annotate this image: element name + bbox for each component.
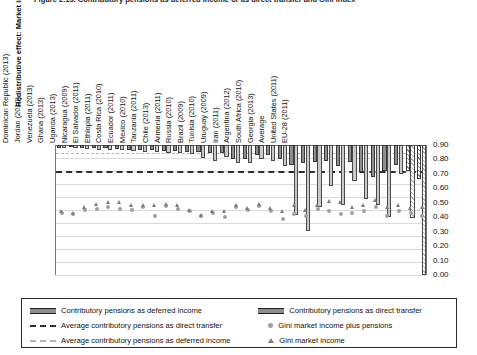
bar-direct-transfer[interactable] bbox=[190, 145, 194, 154]
bar-deferred-income[interactable] bbox=[266, 145, 270, 155]
bar-deferred-income[interactable] bbox=[92, 145, 96, 148]
chart-category-column[interactable] bbox=[254, 145, 266, 275]
marker-gini-market-income[interactable] bbox=[420, 205, 424, 209]
bar-direct-transfer[interactable] bbox=[271, 145, 275, 161]
marker-gini-market-income-plus-pensions[interactable] bbox=[118, 207, 122, 211]
bar-deferred-income[interactable] bbox=[162, 145, 166, 151]
marker-gini-market-income-plus-pensions[interactable] bbox=[130, 208, 134, 212]
marker-gini-market-income-plus-pensions[interactable] bbox=[106, 205, 110, 209]
bar-direct-transfer[interactable] bbox=[341, 145, 345, 205]
bar-direct-transfer[interactable] bbox=[178, 145, 182, 153]
chart-category-column[interactable] bbox=[289, 145, 301, 275]
bar-direct-transfer[interactable] bbox=[213, 145, 217, 161]
bar-deferred-income[interactable] bbox=[289, 145, 293, 165]
marker-gini-market-income[interactable] bbox=[199, 213, 203, 217]
bar-direct-transfer[interactable] bbox=[364, 145, 368, 199]
chart-category-column[interactable] bbox=[393, 145, 405, 275]
marker-gini-market-income[interactable] bbox=[71, 211, 75, 215]
bar-deferred-income[interactable] bbox=[127, 145, 131, 150]
marker-gini-market-income-plus-pensions[interactable] bbox=[281, 217, 285, 221]
bar-deferred-income[interactable] bbox=[406, 145, 410, 171]
marker-gini-market-income[interactable] bbox=[222, 209, 226, 213]
marker-gini-market-income[interactable] bbox=[117, 200, 121, 204]
chart-category-column[interactable] bbox=[196, 145, 208, 275]
chart-category-column[interactable] bbox=[184, 145, 196, 275]
marker-gini-market-income[interactable] bbox=[257, 202, 261, 206]
bar-direct-transfer[interactable] bbox=[399, 145, 403, 174]
marker-gini-market-income[interactable] bbox=[292, 203, 296, 207]
bar-direct-transfer[interactable] bbox=[201, 145, 205, 158]
marker-gini-market-income[interactable] bbox=[94, 202, 98, 206]
bar-direct-transfer[interactable] bbox=[224, 145, 228, 157]
bar-direct-transfer[interactable] bbox=[422, 145, 426, 275]
bar-deferred-income[interactable] bbox=[371, 145, 375, 177]
bar-deferred-income[interactable] bbox=[336, 145, 340, 166]
bar-deferred-income[interactable] bbox=[208, 145, 212, 153]
bar-direct-transfer[interactable] bbox=[248, 145, 252, 163]
bar-deferred-income[interactable] bbox=[243, 145, 247, 159]
bar-direct-transfer[interactable] bbox=[108, 145, 112, 150]
chart-category-column[interactable] bbox=[114, 145, 126, 275]
bar-deferred-income[interactable] bbox=[348, 145, 352, 162]
marker-gini-market-income[interactable] bbox=[373, 198, 377, 202]
marker-gini-market-income[interactable] bbox=[361, 203, 365, 207]
bar-direct-transfer[interactable] bbox=[236, 145, 240, 163]
marker-gini-market-income[interactable] bbox=[175, 203, 179, 207]
chart-category-column[interactable] bbox=[161, 145, 173, 275]
chart-category-column[interactable] bbox=[137, 145, 149, 275]
marker-gini-market-income[interactable] bbox=[350, 205, 354, 209]
bar-deferred-income[interactable] bbox=[394, 145, 398, 165]
bar-direct-transfer[interactable] bbox=[306, 145, 310, 231]
chart-category-column[interactable] bbox=[312, 145, 324, 275]
marker-gini-market-income[interactable] bbox=[152, 203, 156, 207]
marker-gini-market-income[interactable] bbox=[268, 206, 272, 210]
chart-category-column[interactable] bbox=[103, 145, 115, 275]
bar-deferred-income[interactable] bbox=[185, 145, 189, 152]
marker-gini-market-income[interactable] bbox=[82, 205, 86, 209]
chart-category-column[interactable] bbox=[219, 145, 231, 275]
bar-deferred-income[interactable] bbox=[69, 145, 73, 147]
chart-category-column[interactable] bbox=[358, 145, 370, 275]
marker-gini-market-income[interactable] bbox=[396, 203, 400, 207]
bar-direct-transfer[interactable] bbox=[329, 145, 333, 186]
bar-direct-transfer[interactable] bbox=[62, 145, 66, 148]
marker-gini-market-income[interactable] bbox=[315, 203, 319, 207]
bar-direct-transfer[interactable] bbox=[131, 145, 135, 151]
bar-deferred-income[interactable] bbox=[313, 145, 317, 162]
chart-category-column[interactable] bbox=[91, 145, 103, 275]
marker-gini-market-income[interactable] bbox=[303, 208, 307, 212]
marker-gini-market-income-plus-pensions[interactable] bbox=[153, 214, 157, 218]
marker-gini-market-income-plus-pensions[interactable] bbox=[420, 214, 424, 218]
chart-category-column[interactable] bbox=[382, 145, 394, 275]
marker-gini-market-income[interactable] bbox=[327, 199, 331, 203]
chart-category-column[interactable] bbox=[265, 145, 277, 275]
chart-category-column[interactable] bbox=[277, 145, 289, 275]
marker-gini-market-income-plus-pensions[interactable] bbox=[362, 209, 366, 213]
bar-deferred-income[interactable] bbox=[278, 145, 282, 159]
marker-gini-market-income-plus-pensions[interactable] bbox=[350, 211, 354, 215]
marker-gini-market-income-plus-pensions[interactable] bbox=[95, 207, 99, 211]
bar-direct-transfer[interactable] bbox=[73, 145, 77, 148]
bar-direct-transfer[interactable] bbox=[317, 145, 321, 207]
chart-category-column[interactable] bbox=[172, 145, 184, 275]
bar-direct-transfer[interactable] bbox=[97, 145, 101, 150]
marker-gini-market-income-plus-pensions[interactable] bbox=[327, 209, 331, 213]
bar-direct-transfer[interactable] bbox=[283, 145, 287, 166]
chart-category-column[interactable] bbox=[230, 145, 242, 275]
bar-deferred-income[interactable] bbox=[115, 145, 119, 149]
chart-category-column[interactable] bbox=[149, 145, 161, 275]
chart-category-column[interactable] bbox=[207, 145, 219, 275]
bar-direct-transfer[interactable] bbox=[155, 145, 159, 152]
marker-gini-market-income-plus-pensions[interactable] bbox=[397, 209, 401, 213]
bar-deferred-income[interactable] bbox=[359, 145, 363, 172]
bar-deferred-income[interactable] bbox=[173, 145, 177, 151]
marker-gini-market-income[interactable] bbox=[234, 203, 238, 207]
bar-deferred-income[interactable] bbox=[57, 145, 61, 148]
marker-gini-market-income[interactable] bbox=[59, 209, 63, 213]
bar-deferred-income[interactable] bbox=[103, 145, 107, 148]
marker-gini-market-income-plus-pensions[interactable] bbox=[374, 205, 378, 209]
chart-category-column[interactable] bbox=[242, 145, 254, 275]
bar-deferred-income[interactable] bbox=[382, 145, 386, 171]
marker-gini-market-income[interactable] bbox=[385, 205, 389, 209]
marker-gini-market-income[interactable] bbox=[280, 209, 284, 213]
